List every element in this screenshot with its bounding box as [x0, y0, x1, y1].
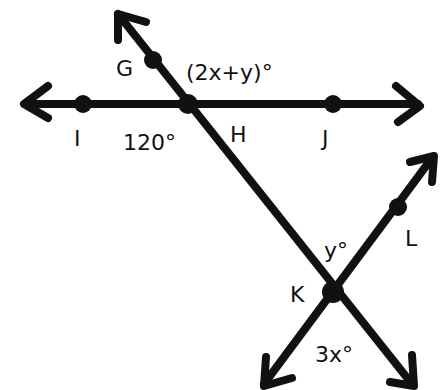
label-G: G — [116, 56, 133, 81]
label-L: L — [405, 226, 418, 251]
point-L — [389, 198, 407, 216]
label-I: I — [74, 126, 81, 151]
angle-label-3x: 3x° — [315, 342, 353, 367]
point-J — [324, 95, 342, 113]
label-J: J — [320, 126, 329, 151]
point-K — [322, 281, 344, 303]
point-G — [144, 51, 162, 69]
label-H: H — [230, 122, 247, 147]
angle-label-2x-plus-y: (2x+y)° — [186, 60, 273, 85]
angle-label-120: 120° — [123, 130, 176, 155]
angle-label-y: y° — [324, 238, 348, 263]
label-K: K — [290, 282, 305, 307]
point-I — [74, 95, 92, 113]
point-H — [178, 94, 198, 114]
geometry-diagram: G I H J L K (2x+y)° 120° y° 3x° — [0, 0, 442, 390]
